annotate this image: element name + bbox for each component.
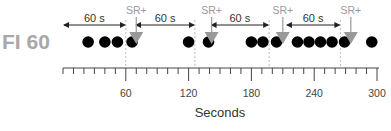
response-dot [99,36,111,48]
response-dot [112,36,124,48]
response-dot [366,36,378,48]
response-dot [246,36,258,48]
tick-label-300: 300 [368,87,386,99]
interval-label-2: 60 s [155,12,176,24]
x-axis-title: Seconds [195,105,246,120]
reinforcer-label-4: SR+ [340,4,361,16]
response-dot [183,36,195,48]
fi-schedule-diagram: FI 60 6012018024030060 s60 s60 s60 sSR+S… [0,0,391,131]
response-dot [326,36,338,48]
tick-label-180: 180 [243,87,261,99]
reinforcer-label-2: SR+ [201,4,222,16]
tick-label-120: 120 [180,87,198,99]
tick-label-240: 240 [305,87,323,99]
response-dot [257,36,269,48]
response-dot [315,36,327,48]
response-dot [303,36,315,48]
interval-label-1: 60 s [84,12,105,24]
interval-label-3: 60 s [229,12,250,24]
tick-label-60: 60 [120,87,132,99]
reinforcer-label-1: SR+ [126,4,147,16]
interval-label-4: 60 s [303,12,324,24]
reinforcer-label-3: SR+ [272,4,293,16]
response-dot [292,36,304,48]
response-dot [82,36,94,48]
